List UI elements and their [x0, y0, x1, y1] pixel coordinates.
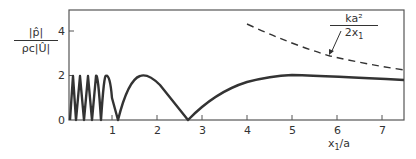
y-tick-0: 0	[58, 114, 65, 127]
y-axis-label: |p̂| ρc|Û|	[14, 26, 58, 55]
x-tick-5: 5	[289, 124, 296, 137]
x-tick-4: 4	[244, 124, 251, 137]
x-ticks	[112, 115, 382, 120]
y-label-denominator: ρc|Û|	[14, 41, 58, 55]
x-tick-1: 1	[109, 124, 116, 137]
annotation-ka2-over-2x1: ka² 2x1	[330, 12, 378, 43]
y-tick-4: 4	[58, 25, 65, 38]
annotation-denominator: 2x1	[330, 26, 378, 43]
annotation-numerator: ka²	[330, 12, 378, 26]
annotation-den-main: 2x	[345, 26, 359, 39]
x-tick-2: 2	[154, 124, 161, 137]
x-axis-label: x1/a	[328, 137, 350, 152]
y-ticks	[69, 31, 74, 76]
annotation-den-sub: 1	[358, 32, 363, 41]
x-label-tail: /a	[340, 137, 350, 150]
far-field-asymptote-curve	[247, 24, 404, 70]
x-tick-labels: 1 2 3 4 5 6 7	[109, 124, 386, 137]
x-tick-3: 3	[199, 124, 206, 137]
y-tick-labels: 0 2 4	[58, 25, 65, 127]
y-tick-2: 2	[58, 69, 65, 82]
x-tick-7: 7	[379, 124, 386, 137]
y-label-numerator: |p̂|	[14, 26, 58, 41]
arrow-head-icon	[329, 49, 334, 55]
x-tick-6: 6	[334, 124, 341, 137]
pressure-amplitude-curve	[70, 75, 404, 120]
